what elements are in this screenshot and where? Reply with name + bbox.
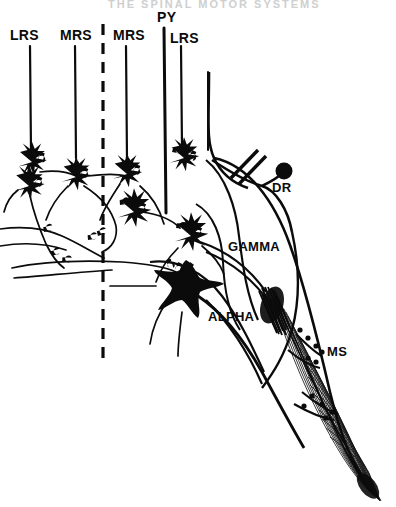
dendrite-mrs-left-branch: [46, 186, 68, 220]
afferent-label-lrs-left: LRS: [10, 28, 39, 42]
bouton: [96, 226, 106, 237]
tract-fiber-py: [164, 28, 166, 213]
dorsal-root-ganglion-icon: [276, 163, 293, 180]
tract-fiber-mrs-right: [126, 46, 127, 160]
afferent-label-mrs-left: MRS: [60, 28, 92, 42]
tract-fiber-lrs-right: [181, 46, 182, 148]
muscle-fiber-striations: [272, 296, 381, 501]
afferent-label-mrs-right: MRS: [113, 28, 145, 42]
neuron-interneuron-py-lower: [175, 212, 208, 251]
figure-canvas: THE SPINAL MOTOR SYSTEMS: [0, 0, 396, 507]
neuron-interneuron-lrs-left-lower: [14, 164, 44, 199]
spinal-motor-system-diagram: [0, 0, 396, 507]
tract-fiber-mrs-left: [75, 46, 76, 158]
bouton: [86, 231, 98, 243]
dendrite-alpha-ventral-2: [178, 312, 182, 356]
bouton: [60, 253, 72, 266]
ink-layer: [0, 24, 384, 503]
synaptic-bouton-group: [25, 144, 205, 274]
dendrite-lrs-left-lateral: [4, 190, 18, 212]
tract-fiber-lrs-left: [30, 46, 31, 152]
structure-label-gamma: GAMMA: [228, 240, 280, 253]
afferent-label-py: PY: [157, 10, 176, 24]
neuron-interneuron-mrs-right-upper: [113, 153, 142, 187]
dendrite-interneuron-link-2: [88, 175, 126, 177]
structure-label-ms: MS: [327, 345, 347, 358]
dendrite-horizontal-lower: [14, 270, 112, 278]
dendrite-lrs-left-descend: [30, 196, 64, 268]
structure-label-alpha: ALPHA: [208, 310, 254, 323]
neuron-interneuron-mrs-right-lower: [118, 188, 151, 227]
structure-label-dr: DR: [272, 181, 291, 194]
afferent-label-lrs-right: LRS: [170, 31, 199, 45]
